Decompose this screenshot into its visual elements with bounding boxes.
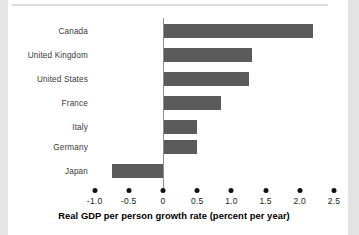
bar-germany <box>163 140 197 154</box>
x-tick-dot <box>332 188 337 193</box>
bar-france <box>163 96 221 110</box>
x-tick-label: 0 <box>161 196 166 206</box>
x-tick-label: -0.5 <box>121 196 136 206</box>
x-tick-label: 1.0 <box>225 196 237 206</box>
bar-japan <box>112 164 163 178</box>
category-label-france: France <box>62 99 88 108</box>
bar-united-kingdom <box>163 48 252 62</box>
bar-canada <box>163 24 313 38</box>
x-tick-label: 2.5 <box>328 196 340 206</box>
bar-chart: Canada United Kingdom United States Fran… <box>0 0 359 235</box>
x-tick-dot <box>229 188 234 193</box>
x-tick-dot <box>195 188 200 193</box>
x-tick-label: 2.0 <box>294 196 306 206</box>
category-label-germany: Germany <box>53 143 88 152</box>
zero-baseline-axis <box>163 18 164 191</box>
bar-united-states <box>163 72 249 86</box>
category-label-italy: Italy <box>72 123 88 132</box>
category-label-united-states: United States <box>37 75 88 84</box>
category-label-japan: Japan <box>65 167 88 176</box>
category-label-united-kingdom: United Kingdom <box>28 51 88 60</box>
x-tick-label: 0.5 <box>191 196 203 206</box>
x-tick-dot <box>126 188 131 193</box>
x-tick-dot <box>161 188 166 193</box>
x-tick-label: -1.0 <box>87 196 102 206</box>
chart-page: Canada United Kingdom United States Fran… <box>0 0 359 235</box>
x-axis-title: Real GDP per person growth rate (percent… <box>0 210 348 221</box>
x-tick-dot <box>92 188 97 193</box>
x-tick-dot <box>263 188 268 193</box>
x-tick-label: 1.5 <box>259 196 271 206</box>
category-label-canada: Canada <box>58 27 88 36</box>
x-tick-dot <box>297 188 302 193</box>
bar-italy <box>163 120 197 134</box>
